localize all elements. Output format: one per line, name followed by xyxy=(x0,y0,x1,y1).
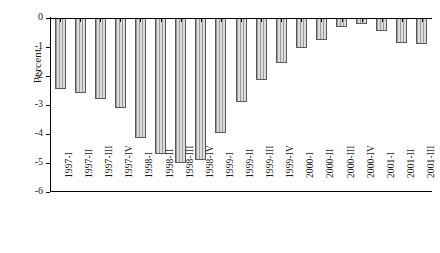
x-tick-label: 1997-IV xyxy=(124,145,134,178)
y-tick-mark xyxy=(46,163,50,164)
x-axis-line xyxy=(50,191,432,192)
x-tick-label: 1998-I xyxy=(144,152,154,178)
bar xyxy=(296,18,307,48)
x-tick-label: 1999-II xyxy=(245,149,255,178)
x-tick-mark xyxy=(181,18,182,22)
bar xyxy=(155,18,166,154)
x-tick-mark xyxy=(342,18,343,22)
bar xyxy=(95,18,106,99)
x-tick-mark xyxy=(221,18,222,22)
x-tick-label: 2001-I xyxy=(386,152,396,178)
bar xyxy=(75,18,86,93)
x-tick-mark xyxy=(422,18,423,22)
y-tick-label: -1 xyxy=(22,40,43,51)
y-tick-mark xyxy=(46,76,50,77)
y-tick-label: -6 xyxy=(22,185,43,196)
y-tick-label: -2 xyxy=(22,69,43,80)
x-tick-label: 2000-III xyxy=(346,146,356,178)
x-tick-label: 2000-I xyxy=(305,152,315,178)
x-tick-label: 2000-II xyxy=(325,149,335,178)
y-tick-mark xyxy=(46,192,50,193)
x-tick-mark xyxy=(382,18,383,22)
x-tick-label: 1998-IV xyxy=(205,145,215,178)
y-tick-label: -3 xyxy=(22,98,43,109)
x-tick-label: 1999-IV xyxy=(285,145,295,178)
bar xyxy=(55,18,66,89)
bar xyxy=(215,18,226,133)
x-tick-mark xyxy=(60,18,61,22)
x-tick-mark xyxy=(362,18,363,22)
x-tick-label: 2001-III xyxy=(426,146,436,178)
y-tick-mark xyxy=(46,105,50,106)
y-tick-label: -4 xyxy=(22,127,43,138)
x-tick-mark xyxy=(80,18,81,22)
x-tick-mark xyxy=(161,18,162,22)
x-tick-mark xyxy=(241,18,242,22)
y-tick-mark xyxy=(46,47,50,48)
x-tick-mark xyxy=(261,18,262,22)
y-axis-line xyxy=(50,17,51,192)
bar xyxy=(135,18,146,138)
x-tick-mark xyxy=(100,18,101,22)
y-tick-mark xyxy=(46,134,50,135)
bar xyxy=(175,18,186,163)
x-tick-label: 1997-I xyxy=(64,152,74,178)
x-tick-label: 1998-III xyxy=(185,146,195,178)
x-tick-mark xyxy=(140,18,141,22)
bar xyxy=(236,18,247,102)
y-tick-label: -5 xyxy=(22,156,43,167)
bar xyxy=(276,18,287,63)
x-tick-label: 2001-II xyxy=(406,149,416,178)
x-tick-label: 1999-I xyxy=(225,152,235,178)
bar xyxy=(256,18,267,80)
x-tick-mark xyxy=(301,18,302,22)
bar xyxy=(115,18,126,108)
x-tick-mark xyxy=(321,18,322,22)
x-tick-mark xyxy=(281,18,282,22)
y-tick-label: 0 xyxy=(22,11,43,22)
x-tick-mark xyxy=(201,18,202,22)
x-tick-label: 1999-III xyxy=(265,146,275,178)
x-tick-label: 1998-II xyxy=(165,149,175,178)
bar-chart-figure: Percent 0-1-2-3-4-5-6 1997-I1997-II1997-… xyxy=(0,0,440,253)
x-tick-mark xyxy=(402,18,403,22)
x-tick-label: 1997-II xyxy=(84,149,94,178)
bar xyxy=(195,18,206,160)
x-tick-mark xyxy=(120,18,121,22)
x-tick-label: 1997-III xyxy=(104,146,114,178)
x-tick-label: 2000-IV xyxy=(366,145,376,178)
